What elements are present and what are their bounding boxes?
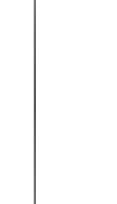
right-blank-region	[36, 0, 117, 204]
left-blank-region	[0, 0, 34, 204]
screenshot-canvas	[0, 0, 117, 204]
